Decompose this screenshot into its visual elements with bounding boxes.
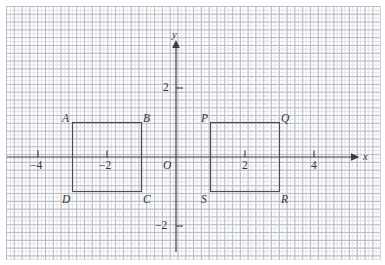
origin-label: O: [163, 160, 171, 172]
y-axis-label: y: [172, 30, 177, 41]
y-axis-arrowhead: [172, 40, 180, 48]
x-axis-label: x: [363, 152, 368, 163]
x-tick-label-pos2: 2: [242, 160, 248, 172]
vertex-label-d: D: [62, 194, 70, 206]
vertex-label-b: B: [143, 113, 150, 125]
diagram-canvas: x y O −4 −2 2 4 2 −2 A B C D P Q R S: [0, 0, 385, 265]
x-tick-label-neg4: −4: [30, 160, 42, 172]
y-tick-label-neg2: −2: [155, 220, 167, 232]
x-tick-label-neg2: −2: [99, 160, 111, 172]
vertex-label-r: R: [281, 194, 288, 206]
coordinate-plot: [0, 0, 385, 265]
y-tick-label-pos2: 2: [163, 82, 169, 94]
vertex-label-s: S: [201, 194, 207, 206]
vertex-label-a: A: [62, 113, 69, 125]
vertex-label-q: Q: [281, 113, 289, 125]
vertex-label-c: C: [143, 194, 151, 206]
x-axis-arrowhead: [351, 153, 360, 161]
x-tick-label-pos4: 4: [311, 160, 317, 172]
vertex-label-p: P: [201, 113, 208, 125]
